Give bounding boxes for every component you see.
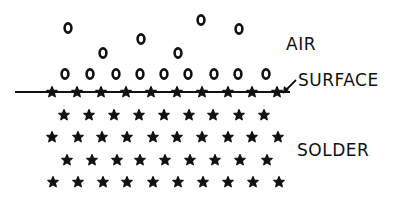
solder-atom-star-icon — [59, 110, 69, 120]
solder-atom-star-icon — [198, 177, 208, 187]
solder-atom-star-icon — [234, 110, 244, 120]
solder-atom-star-icon — [172, 132, 182, 142]
solder-atom-star-icon — [247, 87, 257, 97]
solder-atom-star-icon — [208, 110, 218, 120]
air-molecule-icon — [87, 69, 94, 78]
solder-atom-star-icon — [223, 87, 233, 97]
solder-atom-star-icon — [62, 155, 72, 165]
solder-atom-star-icon — [272, 87, 282, 97]
solder-atom-star-icon — [159, 110, 169, 120]
solder-atom-star-icon — [148, 177, 158, 187]
solder-atom-star-icon — [72, 87, 82, 97]
solder-atom-star-icon — [73, 132, 83, 142]
air-molecule-icon — [138, 34, 145, 43]
solder-atom-star-icon — [109, 110, 119, 120]
air-label: AIR — [286, 36, 316, 53]
solder-atom-star-icon — [273, 132, 283, 142]
solder-atom-star-icon — [134, 110, 144, 120]
air-molecule-icon — [211, 69, 218, 78]
solder-atom-star-icon — [160, 155, 170, 165]
solder-atom-star-icon — [262, 155, 272, 165]
solder-label: SOLDER — [297, 142, 369, 159]
air-molecule-icon — [263, 69, 270, 78]
solder-atom-star-icon — [112, 155, 122, 165]
air-molecule-icon — [65, 23, 72, 32]
air-molecules-scattered — [65, 15, 243, 57]
air-molecule-icon — [113, 69, 120, 78]
solder-atom-star-icon — [98, 177, 108, 187]
solder-atom-star-icon — [135, 155, 145, 165]
solder-atom-star-icon — [173, 177, 183, 187]
solder-atom-star-icon — [146, 87, 156, 97]
solder-atom-star-icon — [223, 177, 233, 187]
solder-atom-star-icon — [47, 87, 57, 97]
surface-label: SURFACE — [298, 72, 379, 89]
solder-atom-star-icon — [47, 132, 57, 142]
air-molecule-icon — [100, 48, 107, 57]
solder-atom-star-icon — [122, 177, 132, 187]
air-molecule-icon — [175, 48, 182, 57]
air-molecule-icon — [185, 69, 192, 78]
air-molecules-row — [62, 69, 270, 78]
solder-atom-star-icon — [197, 132, 207, 142]
air-molecule-icon — [161, 69, 168, 78]
air-molecule-icon — [62, 69, 69, 78]
solder-atom-star-icon — [121, 87, 131, 97]
solder-atom-star-icon — [223, 132, 233, 142]
solder-atom-star-icon — [184, 110, 194, 120]
solder-atom-star-icon — [210, 155, 220, 165]
solder-atoms — [47, 110, 284, 187]
solder-atom-star-icon — [197, 87, 207, 97]
solder-atom-star-icon — [73, 177, 83, 187]
air-molecule-icon — [236, 24, 243, 33]
solder-atom-star-icon — [122, 132, 132, 142]
solder-atom-star-icon — [259, 110, 269, 120]
solder-atom-star-icon — [185, 155, 195, 165]
air-molecule-icon — [198, 15, 205, 24]
solder-atom-star-icon — [97, 132, 107, 142]
solder-atom-star-icon — [235, 155, 245, 165]
solder-atom-star-icon — [247, 132, 257, 142]
solder-atom-star-icon — [172, 87, 182, 97]
solder-atom-star-icon — [96, 87, 106, 97]
solder-atom-star-icon — [248, 177, 258, 187]
solder-atom-star-icon — [84, 110, 94, 120]
solder-atom-star-icon — [274, 177, 284, 187]
solder-surface-diagram — [0, 0, 408, 198]
solder-atom-star-icon — [48, 177, 58, 187]
air-molecule-icon — [137, 69, 144, 78]
solder-atom-star-icon — [148, 132, 158, 142]
air-molecule-icon — [235, 69, 242, 78]
solder-atom-star-icon — [87, 155, 97, 165]
